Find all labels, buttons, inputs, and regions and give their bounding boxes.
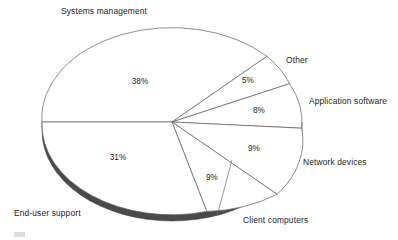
category-label-end-user-support: End-user support <box>14 208 81 218</box>
pct-label-systems-management: 38% <box>132 77 149 86</box>
pie-slices <box>42 28 303 215</box>
pct-label-network-devices: 9% <box>248 144 260 153</box>
scan-artifact-mark <box>14 232 25 237</box>
category-label-application-software: Application software <box>309 96 387 106</box>
category-label-other: Other <box>286 55 308 65</box>
pie-chart-canvas: 38% 5% 8% 9% 9% 31% Systems management O… <box>0 0 398 240</box>
pct-label-application-software: 8% <box>253 106 265 115</box>
category-label-network-devices: Network devices <box>303 157 367 167</box>
pct-label-client-computers: 9% <box>206 173 218 182</box>
category-label-systems-management: Systems management <box>61 6 148 16</box>
category-label-client-computers: Client computers <box>243 215 308 225</box>
pie-chart-figure: 38% 5% 8% 9% 9% 31% Systems management O… <box>0 0 398 240</box>
pct-label-end-user-support: 31% <box>110 153 127 162</box>
pct-label-other: 5% <box>242 76 254 85</box>
